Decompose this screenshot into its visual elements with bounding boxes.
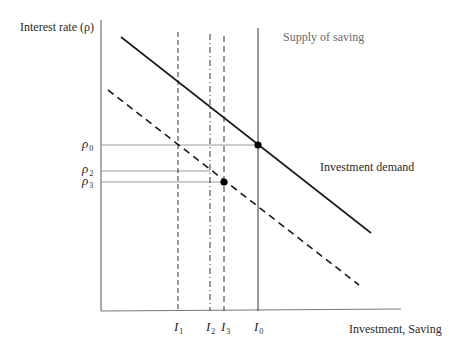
equilibrium-point-initial [254,141,261,148]
rho3-symbol: ρ [82,173,88,188]
i3-subscript: 3 [226,327,230,336]
i1-symbol: I [174,319,178,334]
i3-label: I3 [221,319,230,336]
i0-symbol: I [254,319,258,334]
supply-of-saving-label: Supply of saving [283,30,364,45]
shifted-investment-demand-curve [108,90,359,285]
i3-symbol: I [221,319,225,334]
rho3-label: ρ3 [82,173,93,190]
i1-label: I1 [174,319,183,336]
x-axis [101,309,401,311]
rho0-symbol: ρ [82,136,88,151]
equilibrium-point-new [220,178,227,185]
i2-subscript: 2 [211,327,215,336]
rho0-label: ρ0 [82,136,93,153]
y-axis-label: Interest rate (ρ) [20,20,94,35]
investment-demand-curve [121,37,371,233]
i2-symbol: I [206,319,210,334]
x-axis-label: Investment, Saving [349,322,442,337]
i1-subscript: 1 [179,327,183,336]
i0-label: I0 [254,319,263,336]
investment-demand-label: Investment demand [320,160,414,175]
rho3-subscript: 3 [89,181,93,190]
i0-subscript: 0 [259,327,263,336]
rho0-subscript: 0 [89,144,93,153]
i2-label: I2 [206,319,215,336]
